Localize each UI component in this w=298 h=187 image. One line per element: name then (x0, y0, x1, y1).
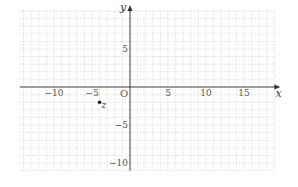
points: z (98, 100, 107, 110)
origin-label: O (120, 88, 128, 99)
x-tick-label: 15 (238, 88, 250, 98)
x-tick-label: −5 (85, 88, 99, 98)
y-tick-label: −5 (115, 120, 129, 130)
x-axis-label: x (275, 87, 282, 100)
x-tick-labels: −10 −5 5 10 15 (45, 88, 250, 98)
coordinate-plane: x y O −10 −5 5 10 15 5 −5 −10 z (0, 0, 298, 187)
x-tick-label: −10 (45, 88, 64, 98)
x-tick-label: 10 (200, 88, 212, 98)
y-tick-label: −10 (109, 158, 128, 168)
y-tick-labels: 5 −5 −10 (109, 44, 128, 168)
y-axis-arrow-icon (128, 5, 133, 11)
y-axis-label: y (119, 1, 127, 14)
x-tick-label: 5 (165, 88, 171, 98)
y-tick-label: 5 (122, 44, 128, 54)
point-z-label: z (101, 100, 107, 110)
